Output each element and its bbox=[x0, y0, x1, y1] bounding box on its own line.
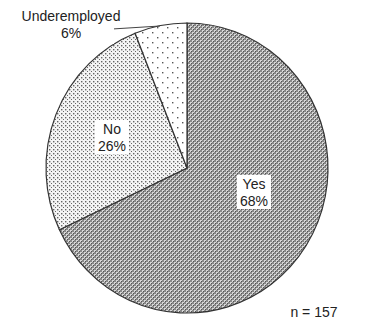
pie-chart: Underemployed 6% No 26% Yes 68% n = 157 bbox=[0, 0, 373, 330]
label-yes-pct: 68% bbox=[240, 193, 268, 209]
label-yes-name: Yes bbox=[243, 176, 266, 192]
sample-size-note: n = 157 bbox=[290, 304, 337, 320]
label-underemployed-name: Underemployed bbox=[22, 8, 121, 24]
label-no-pct: 26% bbox=[98, 138, 126, 154]
label-no: No 26% bbox=[95, 120, 129, 154]
label-underemployed: Underemployed 6% bbox=[22, 8, 121, 44]
label-underemployed-pct: 6% bbox=[61, 25, 81, 41]
label-no-name: No bbox=[103, 121, 121, 137]
label-yes: Yes 68% bbox=[237, 175, 271, 209]
